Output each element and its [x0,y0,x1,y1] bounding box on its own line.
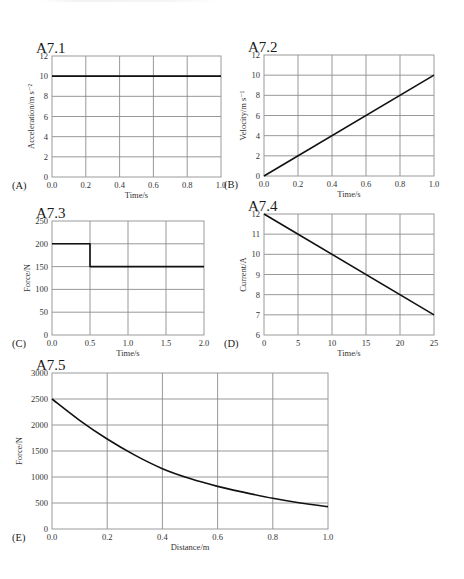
chart-title: A7.5 [36,357,66,373]
y-tick-label: 11 [252,229,260,239]
x-tick-label: 0.2 [80,180,91,190]
y-tick-label: 0 [256,171,260,181]
x-tick-label: 0.2 [102,532,113,542]
y-tick-label: 10 [252,249,261,259]
x-tick-label: 0.8 [182,180,193,190]
chart-a7-1-acceleration: 0.00.20.40.60.81.0024681012Time/sAcceler… [12,40,226,200]
y-tick-label: 6 [256,111,260,121]
chart-a7-5-force-distance: 0.00.20.40.60.81.00500100015002000250030… [12,357,333,552]
y-tick-label: 50 [40,307,49,317]
y-tick-label: 6 [44,112,48,122]
y-tick-label: 4 [256,131,261,141]
x-tick-label: 20 [396,338,405,348]
y-tick-label: 2 [44,152,48,162]
x-tick-label: 0.4 [327,179,338,189]
y-tick-label: 2 [256,151,260,161]
panel-letter: (D) [224,338,239,350]
x-axis-label: Time/s [337,348,360,358]
x-axis-label: Distance/m [171,542,210,552]
chart-a7-4-current: 05101520256789101112Time/sCurrent/AA7.4(… [224,198,438,358]
y-tick-label: 1500 [31,446,48,456]
chart-title: A7.3 [36,205,66,221]
y-tick-label: 8 [256,290,260,300]
y-tick-label: 500 [35,498,48,508]
y-tick-label: 2500 [31,394,48,404]
y-tick-label: 0 [44,524,48,534]
x-tick-label: 5 [296,338,300,348]
x-tick-label: 0.2 [293,179,304,189]
x-tick-label: 0.8 [267,532,278,542]
x-tick-label: 1.0 [429,179,440,189]
x-tick-label: 0.0 [47,532,58,542]
x-tick-label: 0.0 [259,179,270,189]
x-tick-label: 0.0 [47,338,58,348]
chart-a7-3-force-time: 0.00.51.01.52.0050100150200250Time/sForc… [12,205,209,358]
y-axis-label: Velocity/m s⁻¹ [238,90,248,140]
x-tick-label: 2.0 [199,338,210,348]
x-tick-label: 0.4 [114,180,125,190]
y-axis-label: Acceleration/m s⁻² [26,84,36,149]
x-tick-label: 0.8 [395,179,406,189]
x-tick-label: 0.6 [148,180,159,190]
chart-title: A7.2 [248,39,278,55]
y-tick-label: 8 [44,91,48,101]
panel-letter: (B) [224,179,239,191]
chart-title: A7.4 [248,198,278,214]
y-tick-label: 10 [252,70,261,80]
chart-a7-2-velocity: 0.00.20.40.60.81.0024681012Time/sVelocit… [224,39,439,199]
panel-letter: (C) [12,338,27,350]
figure-canvas: 0.00.20.40.60.81.0024681012Time/sAcceler… [0,0,464,579]
y-tick-label: 8 [256,90,260,100]
x-tick-label: 0.6 [361,179,372,189]
y-axis-label: Current/A [238,256,248,291]
panel-letter: (A) [12,180,27,192]
x-axis-label: Time/s [125,190,148,200]
x-axis-label: Time/s [116,348,139,358]
x-tick-label: 25 [430,338,439,348]
y-tick-label: 150 [35,262,48,272]
y-tick-label: 4 [44,132,49,142]
x-tick-label: 10 [328,338,337,348]
y-tick-label: 200 [35,239,48,249]
x-tick-label: 15 [362,338,371,348]
chart-title: A7.1 [36,40,66,56]
x-tick-label: 1.5 [161,338,172,348]
data-series-line [52,399,328,507]
x-axis-label: Time/s [337,189,360,199]
y-tick-label: 10 [40,71,49,81]
data-series-line [264,214,434,315]
y-tick-label: 9 [256,270,260,280]
x-tick-label: 0 [262,338,266,348]
y-axis-label: Force/N [22,264,32,292]
x-tick-label: 1.0 [123,338,134,348]
y-tick-label: 0 [44,172,48,182]
data-series-line [264,75,434,176]
x-tick-label: 1.0 [323,532,334,542]
x-tick-label: 0.4 [157,532,168,542]
y-tick-label: 100 [35,284,48,294]
y-tick-label: 6 [256,330,260,340]
x-tick-label: 0.5 [85,338,96,348]
y-tick-label: 7 [256,310,260,320]
panel-letter: (E) [12,532,26,544]
x-tick-label: 0.0 [47,180,58,190]
x-tick-label: 0.6 [212,532,223,542]
y-tick-label: 1000 [31,472,48,482]
y-tick-label: 2000 [31,420,48,430]
y-axis-label: Force/N [14,437,24,465]
y-tick-label: 0 [44,330,48,340]
